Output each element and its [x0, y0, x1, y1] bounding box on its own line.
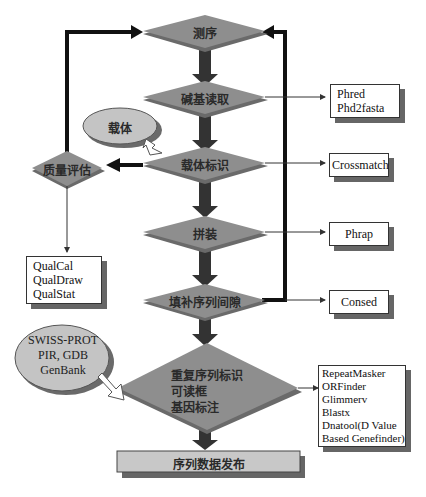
- tool-repeatmasker: RepeatMasker: [322, 367, 402, 380]
- step-sequencing-label: 测序: [155, 24, 255, 41]
- tool-box-base-calling: Phred Phd2fasta: [330, 84, 400, 118]
- tool-glimmerv: Glimmerv: [322, 393, 402, 406]
- step-base-calling-label: 碱基读取: [155, 90, 255, 107]
- step-assembly-label: 拼装: [155, 225, 255, 242]
- tool-phd2fasta: Phd2fasta: [337, 101, 393, 115]
- tool-orfinder: ORFinder: [322, 380, 402, 393]
- tool-dnatool: Dnatool(D Value: [322, 419, 402, 432]
- tool-qualcal: QualCal: [33, 259, 95, 273]
- flowchart-canvas: 测序 碱基读取 载体标识 拼装 填补序列间隙 质量评估 重复序列标识 可读框 基…: [0, 0, 426, 497]
- database-line-2: PIR, GDB: [18, 348, 108, 363]
- tool-box-annotation: RepeatMasker ORFinder Glimmerv Blastx Dn…: [318, 365, 406, 447]
- tool-box-quality: QualCal QualDraw QualStat: [26, 256, 102, 304]
- quality-label: 质量评估: [32, 161, 102, 178]
- tool-box-vector-identification: Crossmatch: [329, 153, 389, 177]
- step-gap-filling-label: 填补序列间隙: [150, 293, 260, 310]
- annotation-line-2: 可读框: [171, 384, 243, 400]
- step-vector-identification-label: 载体标识: [155, 156, 255, 173]
- tool-phred: Phred: [337, 87, 393, 101]
- tool-box-gap-filling: Consed: [329, 290, 389, 314]
- final-step-label: 序列数据发布: [117, 455, 300, 472]
- annotation-line-3: 基因标注: [171, 400, 243, 416]
- tool-consed: Consed: [332, 295, 386, 309]
- annotation-line-1: 重复序列标识: [171, 368, 243, 384]
- database-line-1: SWISS-PROT: [18, 333, 108, 348]
- tool-crossmatch: Crossmatch: [332, 158, 386, 172]
- database-input-label: SWISS-PROT PIR, GDB GenBank: [18, 333, 108, 378]
- database-line-3: GenBank: [18, 363, 108, 378]
- tool-box-assembly: Phrap: [329, 222, 389, 246]
- tool-qualdraw: QualDraw: [33, 273, 95, 287]
- step-annotation-label: 重复序列标识 可读框 基因标注: [171, 368, 243, 416]
- tool-genefinder: Based Genefinder): [322, 432, 402, 445]
- arrow-to-quality: [106, 158, 143, 172]
- tool-phrap: Phrap: [332, 227, 386, 241]
- tool-qualstat: QualStat: [33, 287, 95, 301]
- tool-connectors: [265, 97, 325, 388]
- tool-blastx: Blastx: [322, 406, 402, 419]
- vector-input-label: 载体: [88, 119, 152, 136]
